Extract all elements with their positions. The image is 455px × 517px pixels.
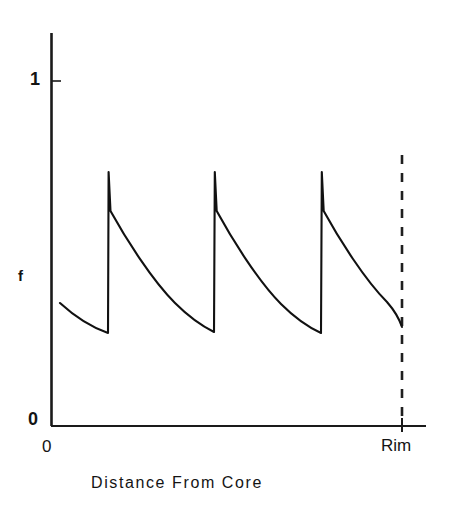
x-axis-title: Distance From Core: [91, 475, 263, 491]
chart-figure: f 1 0 0 Rim Distance From Core: [0, 0, 455, 517]
sawtooth-curve: [60, 172, 402, 333]
x-tick-label-0: 0: [42, 438, 51, 455]
x-tick-label-rim: Rim: [381, 437, 411, 454]
y-axis-label: f: [18, 268, 23, 283]
y-tick-label-1: 1: [30, 70, 40, 88]
y-tick-label-0: 0: [28, 410, 38, 428]
